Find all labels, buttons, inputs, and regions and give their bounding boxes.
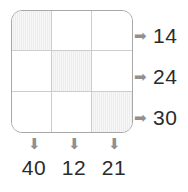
row-sum-value-3: 30 xyxy=(153,107,177,128)
grid-cell-r2c1[interactable] xyxy=(12,51,52,91)
arrow-down-icon: ⬇ xyxy=(68,136,81,153)
grid-cell-r3c3[interactable] xyxy=(92,92,132,132)
row-sum-2: ➡ 24 xyxy=(134,59,177,93)
grid-cell-r1c3[interactable] xyxy=(92,11,132,51)
arrow-down-icon: ⬇ xyxy=(28,136,41,153)
grid-cell-r1c2[interactable] xyxy=(52,11,92,51)
row-sum-value-2: 24 xyxy=(153,66,177,87)
row-sum-3: ➡ 30 xyxy=(134,100,177,134)
column-sum-2: ⬇ 12 xyxy=(53,136,95,178)
arrow-down-icon: ⬇ xyxy=(108,136,121,153)
column-sum-1: ⬇ 40 xyxy=(13,136,55,178)
column-sum-3: ⬇ 21 xyxy=(93,136,135,178)
column-sum-value-1: 40 xyxy=(22,157,46,178)
column-sum-value-3: 21 xyxy=(102,157,126,178)
column-sum-value-2: 12 xyxy=(62,157,86,178)
grid-sum-puzzle: ➡ 14 ➡ 24 ➡ 30 ⬇ 40 ⬇ 12 ⬇ 21 xyxy=(0,0,188,192)
row-sum-value-1: 14 xyxy=(153,25,177,46)
arrow-right-icon: ➡ xyxy=(134,69,150,84)
grid-cell-r1c1[interactable] xyxy=(12,11,52,51)
arrow-right-icon: ➡ xyxy=(134,28,150,43)
grid-cell-r2c2[interactable] xyxy=(52,51,92,91)
grid-cell-r2c3[interactable] xyxy=(92,51,132,91)
grid-cell-r3c1[interactable] xyxy=(12,92,52,132)
puzzle-grid xyxy=(11,10,133,133)
puzzle-grid-cells xyxy=(12,11,132,132)
arrow-right-icon: ➡ xyxy=(134,110,150,125)
grid-cell-r3c2[interactable] xyxy=(52,92,92,132)
row-sum-1: ➡ 14 xyxy=(134,18,177,52)
